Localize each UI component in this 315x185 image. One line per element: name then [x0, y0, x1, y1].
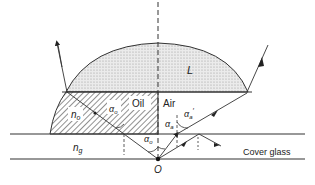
microscope-objective-diagram: L Oil Air no ng αo αo αa αa′ Cover glass… [0, 0, 315, 185]
air-ray-glass [158, 134, 177, 159]
cover-glass-label: Cover glass [243, 147, 291, 157]
alpha-o-glass-label: αo [144, 134, 153, 145]
air-ray-exit [247, 45, 268, 92]
front-lens [66, 43, 248, 92]
n-glass-label: ng [73, 142, 83, 155]
lens-label: L [187, 64, 193, 76]
tir-ray-in [158, 134, 199, 159]
air-label: Air [163, 98, 176, 109]
alpha-a-prime-label: αa′ [184, 107, 194, 120]
tir-ray-out [199, 134, 221, 146]
oil-ray-exit [57, 43, 67, 92]
oil-label: Oil [132, 98, 144, 109]
alpha-a-label: αa [165, 119, 174, 130]
oil-ray-glass [124, 134, 158, 159]
origin-label: O [154, 164, 162, 175]
origin-point [156, 157, 160, 161]
